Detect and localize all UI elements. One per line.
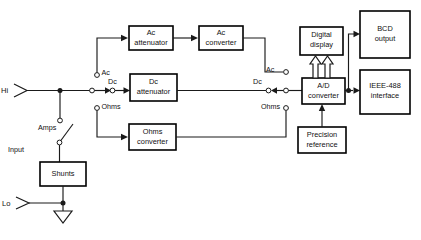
block-ad-converter[interactable]: A/D converter bbox=[302, 78, 345, 104]
block-ohms-converter[interactable]: Ohms converter bbox=[129, 124, 176, 150]
block-ac-converter-line1: Ac bbox=[217, 28, 226, 37]
wire-ohms-branch bbox=[97, 110, 122, 137]
block-ad-converter-line2: converter bbox=[308, 91, 339, 100]
block-ohms-converter-line1: Ohms bbox=[143, 127, 163, 136]
block-ieee-interface-line1: IEEE-488 bbox=[369, 81, 401, 90]
arrow-into-dc-attenuator bbox=[124, 87, 131, 93]
amps-switch-upper-contact[interactable] bbox=[58, 118, 63, 123]
right-contact-dc-label: Dc bbox=[253, 77, 262, 86]
block-shunts-label: Shunts bbox=[51, 169, 74, 178]
block-ac-attenuator-line1: Ac bbox=[147, 28, 156, 37]
right-contact-ohms-label: Ohms bbox=[261, 102, 281, 111]
dmm-block-diagram: Hi Amps Shunts Lo bbox=[0, 0, 421, 240]
bus-arrow-adc-to-display-right bbox=[322, 56, 333, 78]
block-ieee-488-interface[interactable]: IEEE-488 interface bbox=[360, 70, 410, 114]
left-contact-dc[interactable] bbox=[110, 88, 115, 93]
block-digital-display[interactable]: Digital display bbox=[300, 27, 343, 55]
arrow-into-ac-attenuator bbox=[121, 35, 128, 41]
block-ac-attenuator[interactable]: Ac attenuator bbox=[129, 26, 173, 50]
block-ohms-converter-line2: converter bbox=[137, 137, 168, 146]
left-contact-ohms-label: Ohms bbox=[102, 102, 122, 111]
left-switch-pivot[interactable] bbox=[90, 88, 95, 93]
block-dc-attenuator[interactable]: Dc attenuator bbox=[130, 74, 177, 101]
block-ad-converter-line1: A/D bbox=[317, 81, 329, 90]
wire-ac-branch bbox=[97, 38, 122, 73]
left-contact-dc-label: Dc bbox=[108, 77, 117, 86]
amps-switch-blade[interactable] bbox=[61, 124, 74, 141]
wire-adc-to-bcd bbox=[349, 34, 355, 91]
right-switch-wiper-arrow bbox=[271, 87, 277, 93]
left-contact-ohms[interactable] bbox=[95, 106, 100, 111]
block-dc-attenuator-line2: attenuator bbox=[137, 87, 171, 96]
arrow-into-bcd-output bbox=[354, 31, 361, 37]
input-label: Input bbox=[8, 145, 24, 154]
block-bcd-output-line2: output bbox=[375, 34, 396, 43]
hi-terminal-label: Hi bbox=[1, 86, 8, 95]
left-contact-ac-label: Ac bbox=[102, 68, 111, 77]
lo-terminal-label: Lo bbox=[2, 199, 10, 208]
lo-terminal: Lo bbox=[2, 197, 29, 209]
block-ac-converter[interactable]: Ac converter bbox=[199, 26, 243, 50]
block-ieee-interface-line2: interface bbox=[371, 91, 399, 100]
right-contact-dc[interactable] bbox=[266, 88, 271, 93]
block-digital-display-line1: Digital bbox=[311, 30, 332, 39]
block-precision-reference[interactable]: Precision reference bbox=[298, 127, 346, 153]
block-bcd-output[interactable]: BCD output bbox=[360, 11, 410, 58]
block-dc-attenuator-line1: Dc bbox=[149, 77, 158, 86]
wire-acconv-to-right-ac bbox=[243, 38, 283, 72]
block-ac-converter-line2: converter bbox=[206, 38, 237, 47]
amps-switch-label: Amps bbox=[38, 123, 57, 132]
block-precision-reference-line2: reference bbox=[306, 140, 337, 149]
left-contact-ac[interactable] bbox=[95, 73, 100, 78]
block-precision-reference-line1: Precision bbox=[307, 130, 337, 139]
arrow-into-adc-from-precref bbox=[319, 104, 325, 111]
right-contact-ohms[interactable] bbox=[284, 106, 289, 111]
ground-symbol bbox=[54, 203, 72, 223]
wire-ohmsconv-to-right-ohms bbox=[176, 110, 286, 137]
block-shunts[interactable]: Shunts bbox=[40, 162, 86, 186]
arrow-into-ieee-interface bbox=[354, 87, 361, 93]
arrow-into-ohms-converter bbox=[121, 134, 128, 140]
right-switch-pivot[interactable] bbox=[284, 88, 289, 93]
amps-switch-lower-contact[interactable] bbox=[57, 140, 62, 145]
right-contact-ac[interactable] bbox=[284, 70, 289, 75]
block-digital-display-line2: display bbox=[310, 40, 333, 49]
hi-terminal: Hi bbox=[1, 84, 27, 97]
block-bcd-output-line1: BCD bbox=[377, 24, 393, 33]
right-contact-ac-label: Ac bbox=[266, 65, 275, 74]
block-diagram-canvas: Hi Amps Shunts Lo bbox=[0, 0, 421, 240]
block-ac-attenuator-line2: attenuator bbox=[134, 38, 168, 47]
arrow-into-ac-converter bbox=[191, 35, 198, 41]
bus-arrow-adc-to-display-left bbox=[310, 56, 321, 78]
